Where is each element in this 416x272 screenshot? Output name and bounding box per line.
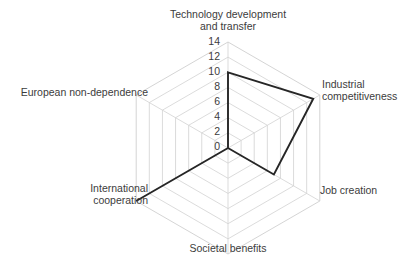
axis-label-international-cooperation: International cooperation <box>44 182 148 207</box>
radial-tick-2: 2 <box>198 126 220 137</box>
radial-tick-14: 14 <box>198 36 220 47</box>
radial-tick-6: 6 <box>198 96 220 107</box>
axis-label-european-non-dependence: European non-dependence <box>8 86 148 98</box>
radial-tick-0: 0 <box>198 141 220 152</box>
axis-label-job-creation: Job creation <box>320 184 416 196</box>
radial-tick-12: 12 <box>198 51 220 62</box>
axis-label-societal-benefits: Societal benefits <box>168 242 288 254</box>
radial-tick-4: 4 <box>198 111 220 122</box>
axis-label-technology-development-and-transfer: Technology development and transfer <box>158 8 298 33</box>
axis-label-industrial-competitiveness: Industrial competitiveness <box>322 78 416 103</box>
radial-tick-8: 8 <box>198 81 220 92</box>
radar-spoke-1 <box>228 95 320 148</box>
radar-chart: 14 12 10 8 6 4 2 0 Technology developmen… <box>0 0 416 272</box>
radial-tick-10: 10 <box>198 66 220 77</box>
